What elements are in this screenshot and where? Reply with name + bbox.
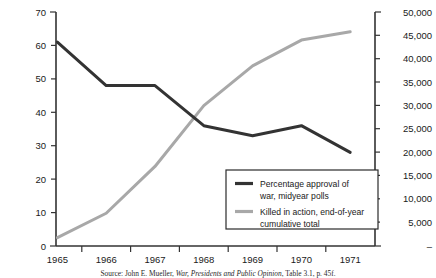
right-axis-tick-label: 15,000 xyxy=(403,170,432,181)
source-note-prefix: Source: John E. Mueller, xyxy=(101,269,176,278)
chart-legend: Percentage approval of war, midyear poll… xyxy=(226,170,378,229)
left-axis-tick-label: 30 xyxy=(35,140,46,151)
x-axis: 1965 1966 1967 1968 1969 1970 1971 xyxy=(47,246,375,265)
right-axis-tick-label: 30,000 xyxy=(403,100,432,111)
source-note: Source: John E. Mueller, War, Presidents… xyxy=(0,269,436,278)
left-axis-tick-label: 10 xyxy=(35,207,46,218)
right-axis-tick-label: 45,000 xyxy=(403,30,432,41)
right-axis-tick-label: 10,000 xyxy=(403,193,432,204)
right-axis-tick-label: 50,000 xyxy=(403,7,432,18)
source-note-title: War, Presidents and Public Opinion xyxy=(176,269,282,278)
x-axis-tick-label: 1969 xyxy=(242,254,263,265)
left-axis-tick-label: 20 xyxy=(35,174,46,185)
left-axis-tick-label: 50 xyxy=(35,73,46,84)
left-axis-tick-label: 40 xyxy=(35,107,46,118)
x-axis-tick-label: 1970 xyxy=(291,254,312,265)
chart-figure: 70 60 50 40 30 20 10 0 50,000 45,000 40 xyxy=(0,0,436,278)
x-axis-tick-label: 1965 xyxy=(47,254,68,265)
x-axis-tick-label: 1966 xyxy=(96,254,117,265)
left-axis-tick-label: 0 xyxy=(41,241,46,252)
legend-label-percentage-approval-line2: war, midyear polls xyxy=(259,191,329,201)
legend-label-killed-in-action-line1: Killed in action, end-of-year xyxy=(260,207,364,217)
right-axis: 50,000 45,000 40,000 35,000 30,000 25,00… xyxy=(375,7,433,252)
series-line-percentage-approval xyxy=(57,42,350,152)
x-axis-tick-label: 1967 xyxy=(144,254,165,265)
legend-label-percentage-approval-line1: Percentage approval of xyxy=(260,179,349,189)
left-axis: 70 60 50 40 30 20 10 0 xyxy=(35,7,56,252)
left-axis-tick-label: 60 xyxy=(35,40,46,51)
right-axis-tick-label: 5,000 xyxy=(408,217,432,228)
x-axis-tick-label: 1968 xyxy=(193,254,214,265)
right-axis-tick-label: 40,000 xyxy=(403,53,432,64)
source-note-suffix: , Table 3.1, p. 45f. xyxy=(282,269,336,278)
right-axis-tick-label: – xyxy=(427,241,433,252)
right-axis-tick-label: 25,000 xyxy=(403,123,432,134)
left-axis-tick-label: 70 xyxy=(35,7,46,18)
right-axis-tick-label: 20,000 xyxy=(403,147,432,158)
right-axis-tick-label: 35,000 xyxy=(403,77,432,88)
legend-label-killed-in-action-line2: cumulative total xyxy=(260,219,320,229)
x-axis-tick-label: 1971 xyxy=(340,254,361,265)
line-chart: 70 60 50 40 30 20 10 0 50,000 45,000 40 xyxy=(0,0,436,278)
